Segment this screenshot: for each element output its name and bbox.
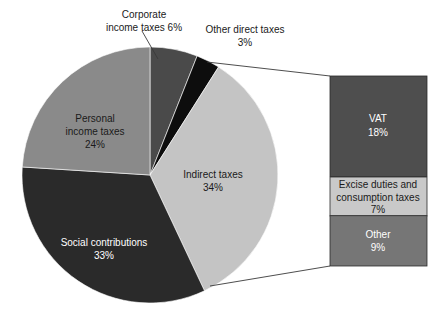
pie-chart-figure: Corporate income taxes 6% Other direct t… bbox=[0, 0, 446, 312]
label-other-direct-line2: 3% bbox=[238, 37, 253, 48]
label-social-line2: 33% bbox=[94, 250, 114, 261]
label-vat-line2: 18% bbox=[368, 127, 388, 138]
label-excise-line3: 7% bbox=[371, 204, 386, 215]
label-vat-line1: VAT bbox=[369, 113, 387, 124]
label-personal-line2: income taxes bbox=[66, 126, 125, 137]
label-excise-line2: consumption taxes bbox=[336, 192, 419, 203]
label-social-line1: Social contributions bbox=[61, 237, 148, 248]
label-corporate-line2: income taxes 6% bbox=[106, 22, 182, 33]
label-indirect-line1: Indirect taxes bbox=[183, 169, 242, 180]
pie-slice-personal-income-taxes[interactable] bbox=[22, 47, 150, 175]
label-other-line2: 9% bbox=[371, 242, 386, 253]
label-personal-line3: 24% bbox=[85, 139, 105, 150]
label-other-line1: Other bbox=[365, 229, 391, 240]
label-excise-line1: Excise duties and bbox=[339, 179, 417, 190]
label-personal-line1: Personal bbox=[75, 113, 114, 124]
chart-canvas: Corporate income taxes 6% Other direct t… bbox=[0, 0, 446, 312]
label-indirect-line2: 34% bbox=[203, 182, 223, 193]
label-other-direct-line1: Other direct taxes bbox=[206, 24, 285, 35]
label-corporate-line1: Corporate bbox=[122, 9, 167, 20]
